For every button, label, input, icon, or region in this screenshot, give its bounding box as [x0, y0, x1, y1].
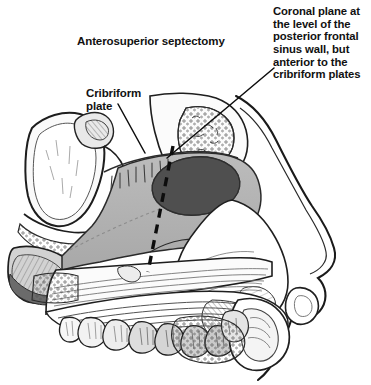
label-anterosuperior-septectomy: Anterosuperior septectomy — [77, 35, 225, 48]
label-cribriform-plate: Cribriform plate — [86, 87, 141, 113]
label-coronal-plane: Coronal plane at the level of the poster… — [273, 5, 369, 81]
nasal-tip-cartilage — [285, 288, 318, 325]
anatomical-figure: Anterosuperior septectomy Cribriform pla… — [0, 0, 371, 385]
